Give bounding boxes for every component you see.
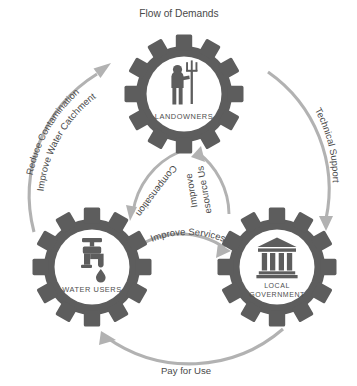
flow-arrow-technical-support <box>268 72 333 231</box>
gear-icon-landowners <box>125 35 244 154</box>
node-label-local-government-line1: LOCAL <box>264 282 290 289</box>
diagram-title: Flow of Demands <box>139 8 218 19</box>
gear-icon-local-government <box>218 208 337 327</box>
flow-label-pay-for-use: Pay for Use <box>161 365 211 376</box>
node-landowners[interactable]: LANDOWNERS <box>125 35 244 154</box>
diagram-canvas: LANDOWNERS WATER USERS <box>0 0 357 386</box>
node-water-users[interactable]: WATER USERS <box>33 208 152 327</box>
node-label-local-government-line2: GOVERNMENT <box>249 291 305 298</box>
flow-label-reduce-contamination-line1: Reduce Contamination <box>24 86 81 176</box>
node-label-landowners: LANDOWNERS <box>155 112 213 121</box>
flow-arrow-pay-for-use <box>99 329 283 364</box>
stakeholder-flow-diagram: LANDOWNERS WATER USERS <box>0 0 357 386</box>
node-label-water-users: WATER USERS <box>62 285 121 294</box>
node-local-government[interactable]: LOCAL GOVERNMENT <box>218 208 337 327</box>
flow-arrow-compensation <box>126 152 179 221</box>
gear-icon-water-users <box>33 208 152 327</box>
